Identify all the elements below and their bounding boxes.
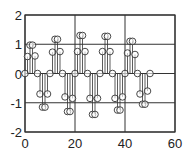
stem-marker [57, 48, 64, 55]
stem-plot: 0204060-2-1012 [0, 0, 188, 162]
stem-marker [147, 70, 154, 77]
y-tick-label: -1 [10, 96, 22, 111]
stem-marker [144, 88, 151, 95]
x-tick-label: 20 [68, 136, 82, 151]
stem-marker [129, 38, 136, 45]
stem-marker [54, 36, 61, 43]
y-tick-label: 2 [15, 8, 22, 23]
stem-marker [107, 48, 114, 55]
stem-marker [42, 104, 49, 111]
stem-marker [94, 95, 101, 102]
x-tick-label: 0 [21, 136, 28, 151]
y-tick-label: 1 [15, 37, 22, 52]
y-tick-label: -2 [10, 125, 22, 140]
y-tick-label: 0 [15, 67, 22, 82]
stems [22, 32, 154, 118]
axis-ticks: 0204060-2-1012 [10, 8, 182, 151]
stem-marker [44, 91, 51, 98]
x-tick-label: 40 [118, 136, 132, 151]
stem-marker [117, 107, 124, 114]
stem-marker [132, 51, 139, 58]
stem-marker [79, 32, 86, 39]
stem-marker [29, 42, 36, 49]
stem-marker [92, 111, 99, 118]
x-tick-label: 60 [168, 136, 182, 151]
stem-marker [104, 33, 111, 40]
stem-marker [32, 53, 39, 60]
stem-marker [67, 108, 74, 115]
stem-marker [69, 95, 76, 102]
stem-marker [82, 48, 89, 55]
stem-marker [142, 101, 149, 108]
stem-marker [119, 94, 126, 101]
